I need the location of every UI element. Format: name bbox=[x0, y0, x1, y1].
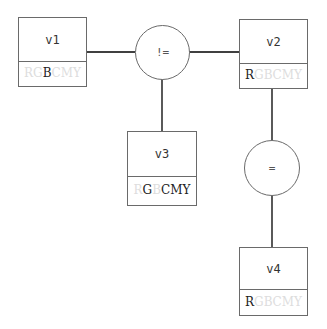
constraint-label: = bbox=[269, 162, 276, 175]
domain-letter: B bbox=[152, 183, 161, 197]
domain-letter: G bbox=[143, 183, 153, 197]
domain-letter: G bbox=[254, 68, 264, 82]
domain-values: RGBCMY bbox=[19, 60, 86, 86]
domain-values: RGBCMY bbox=[240, 62, 307, 88]
domain-letter: R bbox=[245, 295, 254, 309]
domain-letter: M bbox=[170, 183, 182, 197]
variable-v3[interactable]: v3 RGBCMY bbox=[127, 131, 197, 206]
variable-label: v2 bbox=[240, 20, 307, 64]
variable-v4[interactable]: v4 RGBCMY bbox=[239, 247, 308, 316]
domain-letter: C bbox=[273, 68, 282, 82]
domain-letter: G bbox=[254, 295, 264, 309]
variable-label: v3 bbox=[128, 132, 196, 177]
domain-letter: Y bbox=[294, 295, 302, 309]
variable-label: v4 bbox=[240, 248, 307, 290]
domain-letter: Y bbox=[294, 68, 302, 82]
constraint-not-equal[interactable]: != bbox=[135, 25, 190, 80]
domain-values: RGBCMY bbox=[128, 175, 196, 205]
constraint-graph: v1 RGBCMY != v2 RGBCMY v3 RGBCMY = v4 RG… bbox=[0, 0, 327, 329]
domain-letter: M bbox=[282, 295, 294, 309]
constraint-equal[interactable]: = bbox=[244, 140, 300, 196]
domain-letter: B bbox=[43, 66, 52, 80]
variable-v2[interactable]: v2 RGBCMY bbox=[239, 19, 308, 89]
domain-letter: R bbox=[24, 66, 33, 80]
constraint-label: != bbox=[156, 46, 169, 59]
variable-label: v1 bbox=[19, 18, 86, 62]
domain-values: RGBCMY bbox=[240, 288, 307, 315]
domain-letter: Y bbox=[73, 66, 81, 80]
domain-letter: Y bbox=[183, 183, 191, 197]
domain-letter: B bbox=[264, 295, 273, 309]
domain-letter: M bbox=[61, 66, 73, 80]
domain-letter: G bbox=[33, 66, 43, 80]
domain-letter: R bbox=[245, 68, 254, 82]
domain-letter: R bbox=[134, 183, 143, 197]
domain-letter: M bbox=[282, 68, 294, 82]
domain-letter: C bbox=[161, 183, 170, 197]
domain-letter: B bbox=[264, 68, 273, 82]
domain-letter: C bbox=[52, 66, 61, 80]
variable-v1[interactable]: v1 RGBCMY bbox=[18, 17, 87, 87]
domain-letter: C bbox=[273, 295, 282, 309]
